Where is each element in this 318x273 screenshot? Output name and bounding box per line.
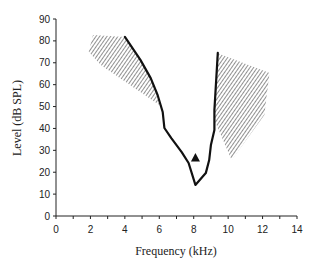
x-tick-label: 0 (53, 224, 59, 235)
axes: 010203040506070809002468101214 (39, 14, 303, 236)
x-tick-label: 2 (88, 224, 94, 235)
x-tick-label: 12 (257, 224, 269, 235)
y-tick-label: 20 (39, 167, 51, 178)
y-tick-label: 30 (39, 145, 51, 156)
data-series (125, 37, 218, 185)
tuning-curve-line (125, 37, 218, 185)
y-tick-label: 70 (39, 57, 51, 68)
x-tick-label: 4 (122, 224, 128, 235)
x-tick-label: 8 (191, 224, 197, 235)
x-tick-label: 10 (223, 224, 235, 235)
hatched-region-1 (89, 35, 160, 105)
y-tick-label: 40 (39, 123, 51, 134)
hatched-region-2 (214, 53, 269, 160)
triangle-marker-icon (191, 153, 200, 162)
y-tick-label: 50 (39, 101, 51, 112)
y-axis-title: Level (dB SPL) (10, 80, 24, 156)
y-tick-label: 10 (39, 189, 51, 200)
x-axis-title: Frequency (kHz) (135, 244, 217, 258)
tuning-curve-chart: 010203040506070809002468101214 Frequency… (0, 0, 318, 273)
x-tick-label: 6 (157, 224, 163, 235)
y-tick-label: 90 (39, 14, 51, 25)
y-tick-label: 60 (39, 79, 51, 90)
x-tick-label: 14 (291, 224, 303, 235)
y-tick-label: 0 (44, 211, 50, 222)
y-tick-label: 80 (39, 35, 51, 46)
hatched-regions (89, 35, 270, 160)
